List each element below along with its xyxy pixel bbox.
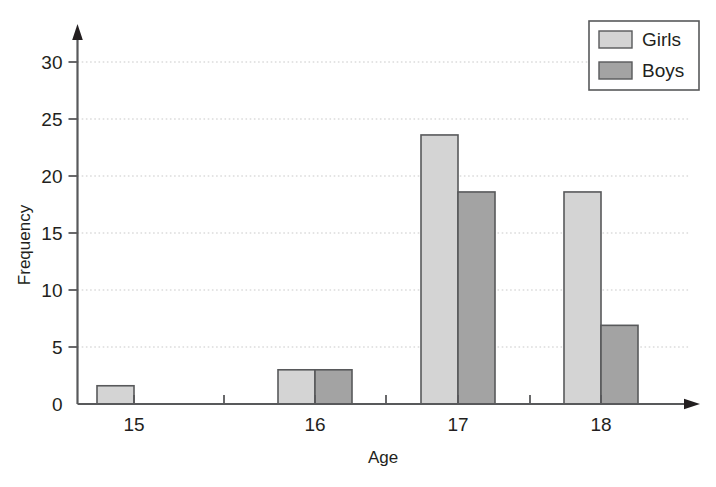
y-tick-label-0: 0 <box>52 394 63 415</box>
legend-label-girls: Girls <box>642 29 681 50</box>
y-tick-label-30: 30 <box>41 52 62 73</box>
x-tick-label-15: 15 <box>123 414 144 435</box>
y-tick-label-25: 25 <box>41 109 62 130</box>
bar-girls-age-16 <box>278 370 315 404</box>
x-axis-title: Age <box>368 448 398 467</box>
chart-canvas: 051015202530 15161718 Frequency Age Girl… <box>0 0 716 487</box>
legend-label-boys: Boys <box>642 60 684 81</box>
bar-girls-age-17 <box>421 135 458 404</box>
x-tick-label-16: 16 <box>304 414 325 435</box>
bar-boys-age-18 <box>601 325 638 404</box>
bar-boys-age-16 <box>315 370 352 404</box>
boys-swatch <box>599 62 632 79</box>
y-tick-label-5: 5 <box>52 337 63 358</box>
bar-girls-age-18 <box>564 192 601 404</box>
legend: Girls Boys <box>589 21 699 90</box>
x-tick-label-17: 17 <box>447 414 468 435</box>
bar-girls-age-15 <box>97 386 134 404</box>
girls-swatch <box>599 31 632 48</box>
y-tick-label-20: 20 <box>41 166 62 187</box>
x-tick-label-18: 18 <box>590 414 611 435</box>
y-axis-title: Frequency <box>15 204 34 285</box>
y-tick-label-15: 15 <box>41 223 62 244</box>
y-tick-label-10: 10 <box>41 280 62 301</box>
bar-boys-age-17 <box>458 192 495 404</box>
bar-chart: 051015202530 15161718 Frequency Age Girl… <box>0 0 716 487</box>
